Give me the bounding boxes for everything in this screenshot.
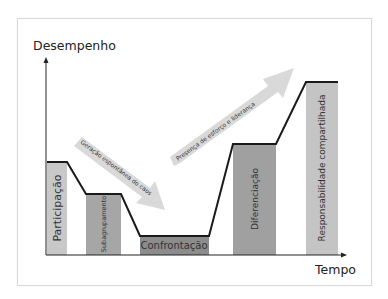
label-diferenciacao: Diferenciação — [250, 168, 260, 230]
down-arrow-label: Geração espontânea do caos — [79, 138, 154, 197]
diagram-canvas: Geração espontânea do caos Presença de e… — [0, 0, 388, 299]
label-participacao: Participação — [51, 174, 64, 241]
label-confrontacao: Confrontação — [140, 240, 207, 251]
y-axis-arrowhead-icon — [44, 57, 49, 63]
x-axis-arrowhead-icon — [341, 253, 347, 258]
label-responsabilidade: Responsabilidade compartilhada — [317, 95, 327, 242]
label-subagrupamento: Subagrupamento — [100, 196, 108, 252]
